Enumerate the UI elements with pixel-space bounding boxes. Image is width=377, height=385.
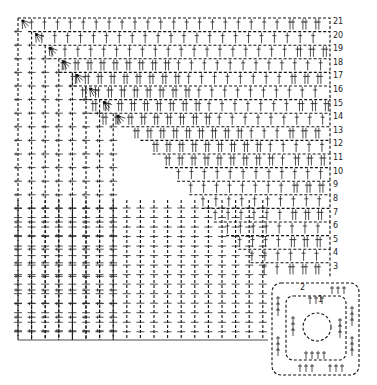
crochet-chart: 212019181716151413121110987654321 <box>0 0 377 385</box>
row-label: 17 <box>333 71 343 80</box>
row-label: 9 <box>333 180 338 189</box>
row-label: 12 <box>333 139 343 148</box>
row-label: 8 <box>333 194 338 203</box>
row-label: 14 <box>333 112 343 121</box>
row-label: 5 <box>333 235 338 244</box>
row-label: 20 <box>333 31 343 40</box>
stitch-grid <box>14 18 330 340</box>
row-label: 13 <box>333 126 343 135</box>
row-label: 18 <box>333 58 343 67</box>
row-label: 10 <box>333 167 343 176</box>
row-label: 6 <box>333 221 338 230</box>
row-label: 4 <box>333 248 338 257</box>
row-label: 2 <box>300 283 305 292</box>
row-label: 1 <box>318 295 323 304</box>
row-label: 15 <box>333 99 343 108</box>
row-label: 11 <box>333 153 343 162</box>
row-label: 3 <box>333 262 338 271</box>
row-label: 19 <box>333 44 343 53</box>
row-label: 16 <box>333 85 343 94</box>
granny-motif <box>272 283 359 375</box>
row-label: 21 <box>333 17 343 26</box>
row-label: 7 <box>333 208 338 217</box>
